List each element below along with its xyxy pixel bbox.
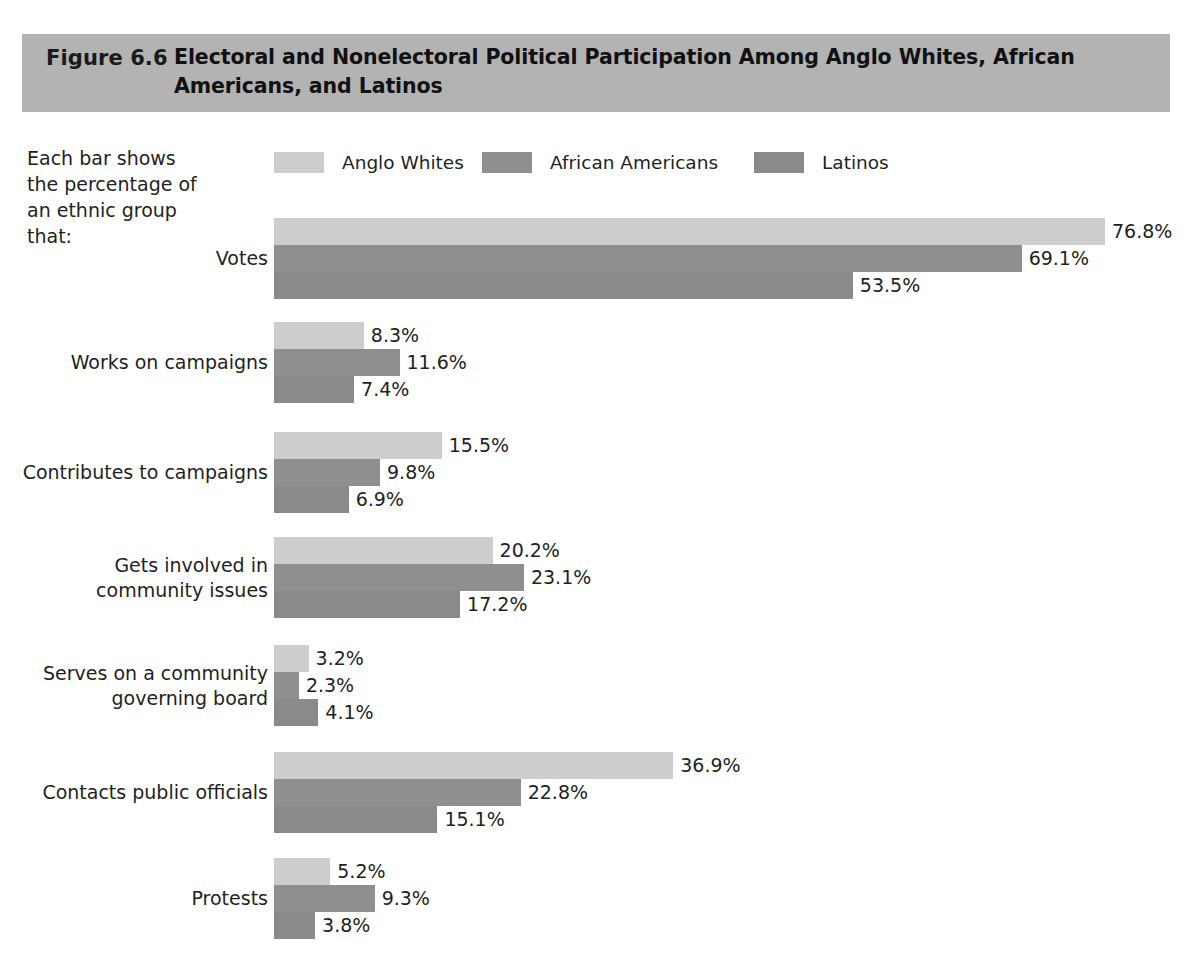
bar-group: Contacts public officials36.9%22.8%15.1% — [0, 752, 1192, 833]
bar — [274, 885, 375, 912]
bar — [274, 564, 524, 591]
category-label-line: governing board — [0, 686, 268, 711]
bar-value-label: 4.1% — [318, 699, 373, 726]
bar-value-label: 20.2% — [493, 537, 560, 564]
bar-value-label: 2.3% — [299, 672, 354, 699]
bar — [274, 322, 364, 349]
bar-group: Votes76.8%69.1%53.5% — [0, 218, 1192, 299]
bar-value-label: 69.1% — [1022, 245, 1089, 272]
category-label: Contributes to campaigns — [0, 460, 268, 485]
bar — [274, 699, 318, 726]
bar-group: Gets involved incommunity issues20.2%23.… — [0, 537, 1192, 618]
bar — [274, 672, 299, 699]
category-label: Protests — [0, 886, 268, 911]
bar-value-label: 15.5% — [442, 432, 509, 459]
category-label: Votes — [0, 246, 268, 271]
chart-plot-area: Votes76.8%69.1%53.5%Works on campaigns8.… — [0, 0, 1192, 972]
bar — [274, 432, 442, 459]
category-label: Contacts public officials — [0, 780, 268, 805]
bar — [274, 537, 493, 564]
bar — [274, 912, 315, 939]
category-label-line: Serves on a community — [0, 661, 268, 686]
bar-value-label: 22.8% — [521, 779, 588, 806]
bar-value-label: 8.3% — [364, 322, 419, 349]
bar — [274, 486, 349, 513]
bar — [274, 806, 437, 833]
category-label: Serves on a communitygoverning board — [0, 661, 268, 711]
category-label: Works on campaigns — [0, 350, 268, 375]
bar-value-label: 3.8% — [315, 912, 370, 939]
bar-group: Serves on a communitygoverning board3.2%… — [0, 645, 1192, 726]
category-label-line: Works on campaigns — [0, 350, 268, 375]
bar — [274, 591, 460, 618]
bar — [274, 245, 1022, 272]
bar-value-label: 5.2% — [330, 858, 385, 885]
bar — [274, 459, 380, 486]
category-label-line: Contacts public officials — [0, 780, 268, 805]
category-label-line: community issues — [0, 578, 268, 603]
bar-value-label: 23.1% — [524, 564, 591, 591]
bar-value-label: 53.5% — [853, 272, 920, 299]
bar-value-label: 6.9% — [349, 486, 404, 513]
bar-value-label: 3.2% — [309, 645, 364, 672]
category-label-line: Contributes to campaigns — [0, 460, 268, 485]
bar-value-label: 11.6% — [400, 349, 467, 376]
bar-group: Protests5.2%9.3%3.8% — [0, 858, 1192, 939]
bar-value-label: 9.3% — [375, 885, 430, 912]
bar-group: Contributes to campaigns15.5%9.8%6.9% — [0, 432, 1192, 513]
figure-6-6: Figure 6.6 Electoral and Nonelectoral Po… — [0, 0, 1192, 972]
bar — [274, 272, 853, 299]
bar-group: Works on campaigns8.3%11.6%7.4% — [0, 322, 1192, 403]
bar — [274, 376, 354, 403]
bar-value-label: 7.4% — [354, 376, 409, 403]
bar — [274, 218, 1105, 245]
bar — [274, 645, 309, 672]
bar — [274, 858, 330, 885]
bar-value-label: 9.8% — [380, 459, 435, 486]
bar — [274, 349, 400, 376]
bar-value-label: 15.1% — [437, 806, 504, 833]
bar — [274, 779, 521, 806]
category-label: Gets involved incommunity issues — [0, 553, 268, 603]
bar-value-label: 76.8% — [1105, 218, 1172, 245]
bar-value-label: 36.9% — [673, 752, 740, 779]
category-label-line: Protests — [0, 886, 268, 911]
bar — [274, 752, 673, 779]
category-label-line: Gets involved in — [0, 553, 268, 578]
bar-value-label: 17.2% — [460, 591, 527, 618]
category-label-line: Votes — [0, 246, 268, 271]
